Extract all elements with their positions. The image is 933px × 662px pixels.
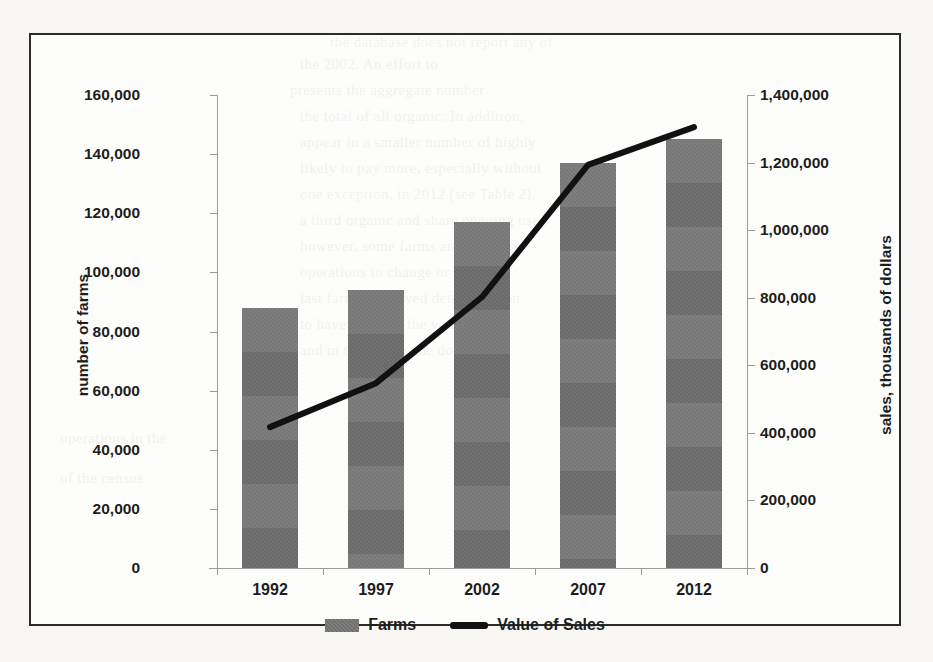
- left-axis-tick: [210, 154, 217, 155]
- category-axis-tick: [641, 568, 642, 575]
- legend-item-label: Farms: [368, 616, 416, 634]
- left-axis-tick: [210, 332, 217, 333]
- right-axis-tick-label: 200,000: [760, 492, 816, 508]
- right-axis-tick-label: 1,400,000: [760, 87, 829, 103]
- right-axis-tick: [748, 433, 755, 434]
- category-axis-tick-label: 2012: [639, 581, 749, 599]
- left-axis-tick: [210, 450, 217, 451]
- category-axis-tick-label: 2007: [533, 581, 643, 599]
- category-axis-tick-label: 1997: [321, 581, 431, 599]
- right-axis-tick-label: 1,000,000: [760, 222, 829, 238]
- right-axis-tick: [748, 230, 755, 231]
- left-axis-tick: [210, 272, 217, 273]
- right-axis-tick: [748, 298, 755, 299]
- category-axis-tick-label: 2002: [427, 581, 537, 599]
- chart-legend: FarmsValue of Sales: [31, 616, 899, 634]
- left-axis-tick: [210, 509, 217, 510]
- category-axis-tick-label: 1992: [215, 581, 325, 599]
- legend-item-value-of-sales: Value of Sales: [450, 616, 605, 634]
- left-axis-tick: [210, 95, 217, 96]
- right-axis-tick: [748, 95, 755, 96]
- left-axis-tick-label: 120,000: [84, 205, 140, 221]
- legend-item-label: Value of Sales: [497, 616, 605, 634]
- category-axis-tick: [217, 568, 218, 575]
- legend-bar-swatch-icon: [325, 619, 359, 632]
- legend-line-swatch-icon: [450, 622, 488, 629]
- left-axis-tick-label: 80,000: [93, 324, 140, 340]
- left-axis-title: number of farms: [74, 274, 92, 396]
- left-axis-tick-label: 40,000: [93, 442, 140, 458]
- right-axis-tick-label: 0: [760, 560, 769, 576]
- left-axis-tick: [210, 568, 217, 569]
- left-axis-tick-label: 20,000: [93, 501, 140, 517]
- right-axis-tick: [748, 568, 755, 569]
- right-axis-tick-label: 400,000: [760, 425, 816, 441]
- chart-figure-frame: 020,00040,00060,00080,000100,000120,0001…: [29, 33, 901, 626]
- right-axis-tick-label: 800,000: [760, 290, 816, 306]
- legend-item-farms: Farms: [325, 616, 416, 634]
- right-axis-tick-label: 1,200,000: [760, 155, 829, 171]
- left-axis-tick: [210, 213, 217, 214]
- left-axis-tick-label: 0: [131, 560, 140, 576]
- right-axis-line: [747, 95, 748, 569]
- category-axis-tick: [429, 568, 430, 575]
- category-axis-tick: [747, 568, 748, 575]
- category-axis-tick: [323, 568, 324, 575]
- plot-area: [217, 95, 747, 568]
- left-axis-tick: [210, 391, 217, 392]
- right-axis-title: sales, thousands of dollars: [877, 235, 895, 435]
- left-axis-tick-label: 160,000: [84, 87, 140, 103]
- value-of-sales-polyline: [270, 127, 694, 427]
- right-axis-tick: [748, 365, 755, 366]
- right-axis-tick: [748, 500, 755, 501]
- left-axis-tick-label: 60,000: [93, 383, 140, 399]
- line-series-value-of-sales: [217, 95, 747, 568]
- category-axis-tick: [535, 568, 536, 575]
- right-axis-tick-label: 600,000: [760, 357, 816, 373]
- right-axis-tick: [748, 163, 755, 164]
- left-axis-tick-label: 100,000: [84, 264, 140, 280]
- left-axis-tick-label: 140,000: [84, 146, 140, 162]
- category-axis-line: [209, 568, 755, 569]
